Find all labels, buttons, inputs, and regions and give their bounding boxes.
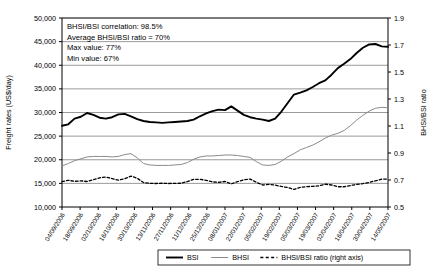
y-tick-label-right: 1.1 <box>394 122 404 131</box>
legend-label: BSI <box>187 253 199 262</box>
series-line-bhsi-bsi-ratio-right-axis <box>62 176 388 189</box>
y-tick-label-right: 1.7 <box>394 41 404 50</box>
annotation-line: Min value: 67% <box>67 54 119 63</box>
annotation-line: Average BHSI/BSI ratio = 70% <box>67 33 170 42</box>
y-tick-label-left: 10,000 <box>34 203 56 212</box>
annotation-box: BHSI/BSI correlation: 98.5%Average BHSI/… <box>67 22 170 63</box>
x-axis: 04/09/200618/09/200602/10/200616/10/2006… <box>43 207 392 242</box>
y-tick-label-right: 0.7 <box>394 176 404 185</box>
annotation-line: Max value: 77% <box>67 43 121 52</box>
y-tick-label-right: 1.9 <box>394 14 404 23</box>
y-axis-title-left: Freight rates (US$/day) <box>4 75 13 150</box>
legend-label: BHSI <box>232 253 249 262</box>
y-tick-label-left: 20,000 <box>34 155 56 164</box>
y-axis-left: 50,00045,00040,00035,00030,00025,00020,0… <box>34 14 62 212</box>
chart-svg: 50,00045,00040,00035,00030,00025,00020,0… <box>0 0 437 279</box>
y-tick-label-right: 0.5 <box>394 203 404 212</box>
y-tick-label-left: 40,000 <box>34 61 56 70</box>
legend: BSIBHSIBHSI/BSI ratio (right axis) <box>158 250 410 265</box>
annotation-line: BHSI/BSI correlation: 98.5% <box>67 22 163 31</box>
legend-label: BHSI/BSI ratio (right axis) <box>281 253 363 262</box>
y-tick-label-left: 50,000 <box>34 14 56 23</box>
y-tick-label-left: 25,000 <box>34 132 56 141</box>
y-tick-label-left: 30,000 <box>34 108 56 117</box>
y-tick-label-right: 1.5 <box>394 68 404 77</box>
series-line-bhsi <box>62 107 388 166</box>
y-tick-label-left: 15,000 <box>34 179 56 188</box>
y-axis-right: 1.91.71.51.31.10.90.70.5 <box>388 14 404 212</box>
y-axis-title-right: BHSI/BSI ratio <box>419 89 428 135</box>
chart-container: 50,00045,00040,00035,00030,00025,00020,0… <box>0 0 437 279</box>
y-tick-label-right: 1.3 <box>394 95 404 104</box>
y-tick-label-left: 45,000 <box>34 37 56 46</box>
y-tick-label-left: 35,000 <box>34 84 56 93</box>
y-tick-label-right: 0.9 <box>394 149 404 158</box>
